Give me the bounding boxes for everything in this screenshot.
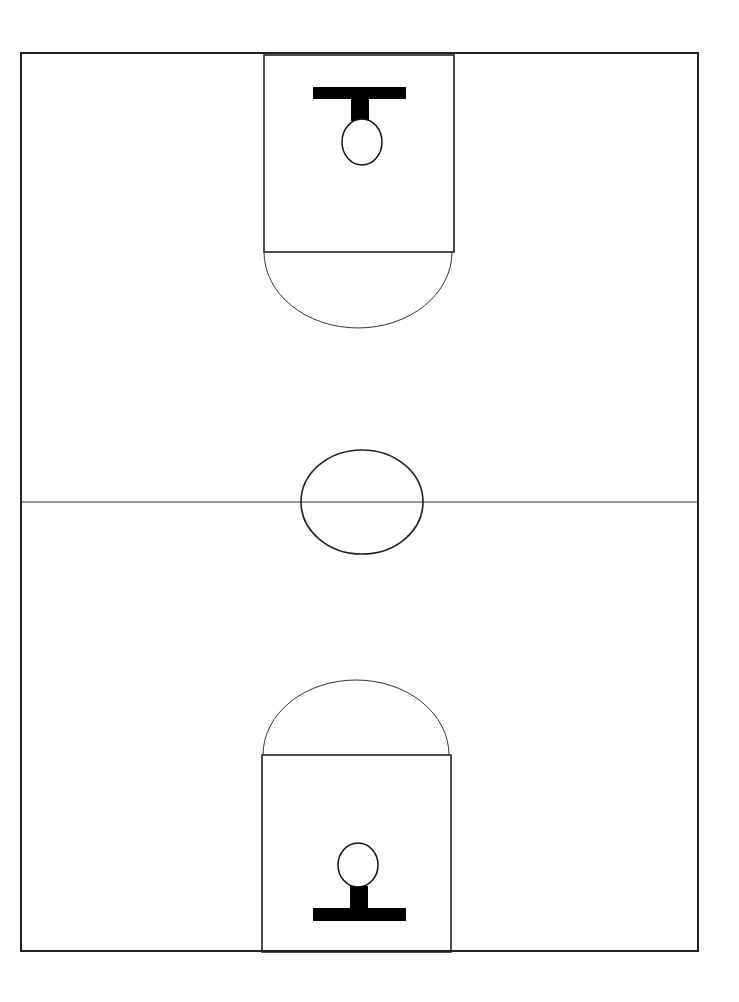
basketball-court-diagram <box>0 0 739 1002</box>
top-basket-area <box>264 55 454 328</box>
bottom-free-throw-arc <box>263 680 449 755</box>
top-backboard <box>313 87 406 99</box>
bottom-hoop-stem <box>350 886 368 908</box>
top-free-throw-arc <box>264 252 452 328</box>
bottom-hoop <box>338 843 378 887</box>
top-hoop <box>342 119 382 165</box>
bottom-basket-area <box>262 680 451 952</box>
top-hoop-stem <box>351 99 369 121</box>
bottom-backboard <box>313 908 406 921</box>
